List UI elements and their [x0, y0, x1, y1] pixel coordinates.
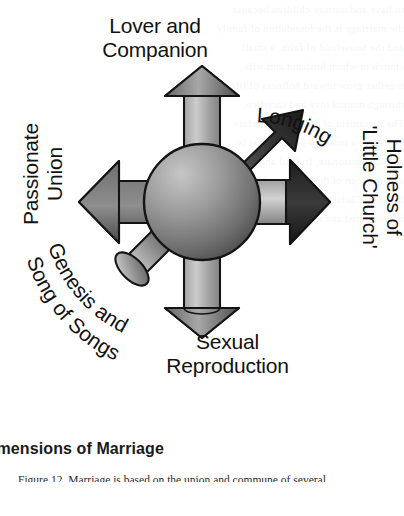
label-holness-little-church: Holness of 'Little Church'	[358, 117, 404, 257]
label-lover-and-companion: Lover and Companion	[0, 14, 310, 62]
label-sexual-reproduction: Sexual Reproduction	[120, 330, 335, 378]
figure-caption-text: Figure 12. Marriage is based on the unio…	[18, 474, 404, 482]
label-passionate-union: Passionate Union	[19, 104, 67, 244]
figure-section-heading: imensions of Marriage	[0, 440, 404, 458]
marriage-dimensions-diagram: Longing Genesis and Song of Songs Lover …	[0, 0, 404, 420]
figure-caption-block: imensions of Marriage Figure 12. Marriag…	[0, 440, 404, 482]
center-sphere	[144, 144, 260, 260]
figure-page: to have and nurture children because the…	[0, 0, 404, 516]
